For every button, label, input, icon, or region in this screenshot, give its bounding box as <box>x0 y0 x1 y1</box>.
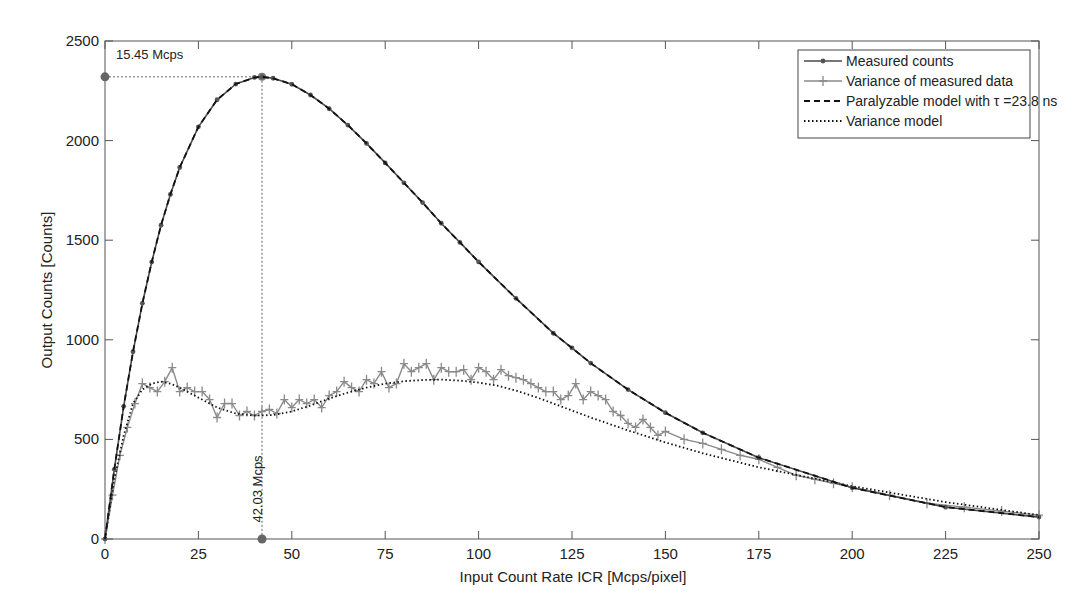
y-tick-label: 2500 <box>66 32 99 49</box>
legend-dot-marker <box>821 59 826 64</box>
legend: Measured counts Variance of measured dat… <box>798 50 1057 138</box>
x-tick-label: 150 <box>653 545 678 562</box>
y-axis-label: Output Counts [Counts] <box>38 212 55 369</box>
x-tick-label: 100 <box>466 545 491 562</box>
x-axis-peak-marker <box>258 535 267 544</box>
y-tick-label: 500 <box>74 430 99 447</box>
legend-label-paralyzable-model: Paralyzable model with τ =23.8 ns <box>846 93 1057 109</box>
x-tick-label: 125 <box>559 545 584 562</box>
x-tick-label: 75 <box>377 545 394 562</box>
y-tick-label: 2000 <box>66 132 99 149</box>
y-axis-peak-marker <box>101 72 110 81</box>
annotation-peak-output: 15.45 Mcps <box>116 47 184 62</box>
legend-label-variance-model: Variance model <box>846 113 942 129</box>
x-tick-label: 175 <box>746 545 771 562</box>
legend-label-variance-measured: Variance of measured data <box>846 73 1013 89</box>
annotation-peak-input: 42.03 Mcps <box>250 455 265 523</box>
chart: 0255075100125150175200225250 05001000150… <box>0 0 1091 613</box>
x-tick-label: 225 <box>933 545 958 562</box>
y-tick-label: 0 <box>91 530 99 547</box>
legend-label-measured-counts: Measured counts <box>846 53 953 69</box>
x-tick-label: 250 <box>1026 545 1051 562</box>
y-tick-label: 1500 <box>66 231 99 248</box>
x-tick-label: 200 <box>840 545 865 562</box>
x-tick-label: 50 <box>283 545 300 562</box>
y-tick-label: 1000 <box>66 331 99 348</box>
x-tick-label: 25 <box>190 545 207 562</box>
x-axis-label: Input Count Rate ICR [Mcps/pixel] <box>460 568 687 585</box>
x-tick-label: 0 <box>101 545 109 562</box>
